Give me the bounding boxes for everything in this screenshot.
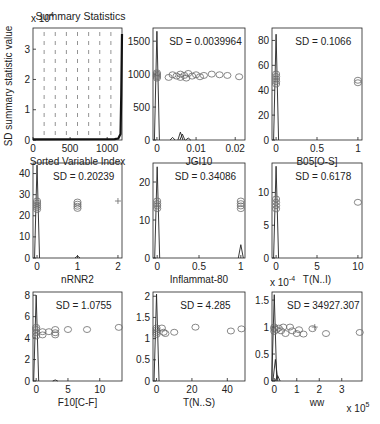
y-tick-label: 1.5: [255, 295, 269, 306]
plus-marker: [115, 198, 121, 204]
x-tick-label: 20: [186, 384, 198, 395]
data-point: [64, 327, 71, 333]
x-axis-label: nRNR2: [61, 274, 94, 285]
y-tick-label: 40: [258, 85, 270, 96]
figure: 050010000123Sorted Variable IndexSummary…: [0, 0, 380, 424]
data-point: [216, 72, 223, 78]
sd-annotation: SD = 34927.307: [287, 300, 360, 311]
x-tick-label: 0.02: [225, 143, 245, 154]
x-tick-label: 2: [316, 384, 322, 395]
y-tick-label: 1: [24, 104, 30, 115]
y-tick-label: 0: [263, 253, 269, 264]
sd-annotation: SD = 1.0755: [56, 300, 112, 311]
y-tick-label: 0: [24, 376, 30, 387]
x-tick-label: 500: [62, 143, 79, 154]
x-axis-label: Inflammat-80: [170, 274, 229, 285]
y-tick-label: 6: [24, 311, 30, 322]
y-tick-label: 0.5: [255, 349, 269, 360]
data-point: [83, 327, 90, 333]
sd-annotation: SD = 0.34086: [175, 171, 237, 182]
y-tick-label: 1.5: [136, 312, 150, 323]
y-tick-label: 20: [19, 210, 31, 221]
data-point: [171, 329, 178, 335]
x-tick-label: 1: [238, 261, 244, 272]
x-tick-label: 0: [273, 143, 279, 154]
subplot-b05-o-s-: 00.51020406080B05[O-S]SD = 0.1066: [258, 28, 362, 167]
x-tick-label: 10: [94, 384, 106, 395]
y-tick-label: 0: [144, 135, 150, 146]
y-tick-label: 2: [24, 354, 30, 365]
x-exponent-label: x 105: [347, 401, 370, 414]
y-tick-label: 5: [263, 220, 269, 231]
sd-annotation: SD = 0.0039964: [169, 36, 242, 47]
y-tick-label: 2: [24, 74, 30, 85]
y-tick-label: 0: [24, 135, 30, 146]
y-tick-label: 20: [258, 110, 270, 121]
data-point: [322, 331, 329, 337]
x-tick-label: 0.5: [192, 261, 206, 272]
x-tick-label: 0: [33, 384, 39, 395]
density-spike: [35, 165, 40, 258]
x-tick-label: 0: [34, 261, 40, 272]
sd-annotation: SD = 0.20239: [53, 171, 115, 182]
x-tick-label: 0.5: [310, 143, 324, 154]
x-axis-label: T(N..S): [183, 397, 215, 408]
y-tick-label: 10: [139, 215, 151, 226]
x-tick-label: 3: [339, 384, 345, 395]
x-tick-label: 1: [294, 384, 300, 395]
x-axis-label: T(N..I): [303, 274, 331, 285]
data-point: [280, 324, 287, 330]
y-exponent-label: x 10-4: [270, 275, 295, 288]
y-tick-label: 60: [258, 60, 270, 71]
x-tick-label: 0: [154, 384, 160, 395]
x-tick-label: 0: [30, 143, 36, 154]
data-point: [224, 72, 231, 78]
x-tick-label: 0.01: [186, 143, 206, 154]
x-tick-label: 0: [154, 143, 160, 154]
data-point: [236, 74, 243, 80]
y-axis-label: SD summary statistic value: [3, 25, 14, 146]
sd-annotation: SD = 0.1066: [295, 36, 351, 47]
y-tick-label: 20: [139, 177, 151, 188]
subplot-summary: 050010000123Sorted Variable IndexSummary…: [3, 10, 125, 167]
y-tick-label: 40: [19, 168, 31, 179]
x-tick-label: 1: [355, 143, 361, 154]
x-tick-label: 40: [222, 384, 234, 395]
density-spike: [273, 359, 278, 381]
data-point: [227, 328, 234, 334]
y-tick-label: 10: [19, 231, 31, 242]
data-point: [192, 324, 199, 330]
data-point: [160, 329, 167, 335]
subplot-f10-c-f-: 051002468F10[C-F]SD = 1.0755: [24, 290, 122, 408]
x-tick-label: 10: [352, 261, 364, 272]
y-tick-label: 1500: [128, 36, 151, 47]
x-tick-label: 5: [65, 384, 71, 395]
y-tick-label: 0: [263, 376, 269, 387]
x-tick-label: 0: [273, 261, 279, 272]
y-tick-label: 500: [133, 102, 150, 113]
x-tick-label: 0: [271, 384, 277, 395]
x-tick-label: 1: [75, 261, 81, 272]
data-point: [115, 324, 122, 330]
y-tick-label: 0: [263, 135, 269, 146]
x-tick-label: 0: [154, 261, 160, 272]
density-spike: [155, 167, 160, 258]
subplot-jgi10: 00.010.02050010001500JGI10SD = 0.0039964: [128, 28, 246, 167]
y-exponent-label: x 104: [31, 11, 54, 24]
x-tick-label: 2: [115, 261, 121, 272]
y-tick-label: 30: [19, 189, 31, 200]
x-axis-label: F10[C-F]: [58, 397, 98, 408]
density-spike: [154, 31, 159, 140]
y-tick-label: 80: [258, 35, 270, 46]
x-axis-label: B05[O-S]: [296, 156, 337, 167]
data-point: [208, 71, 215, 77]
data-point: [295, 327, 302, 333]
subplot-t-n-s-: 0204000.511.52T(N..S)SD = 4.285: [136, 291, 245, 408]
x-axis-label: ww: [309, 397, 325, 408]
y-tick-label: 0: [24, 253, 30, 264]
x-axis-label: Sorted Variable Index: [30, 156, 125, 167]
data-point: [162, 331, 169, 337]
y-tick-label: 3: [24, 44, 30, 55]
plus-marker: [312, 324, 318, 330]
subplot-t-n-i-: 05100510T(N..I)SD = 0.6178: [258, 163, 364, 285]
